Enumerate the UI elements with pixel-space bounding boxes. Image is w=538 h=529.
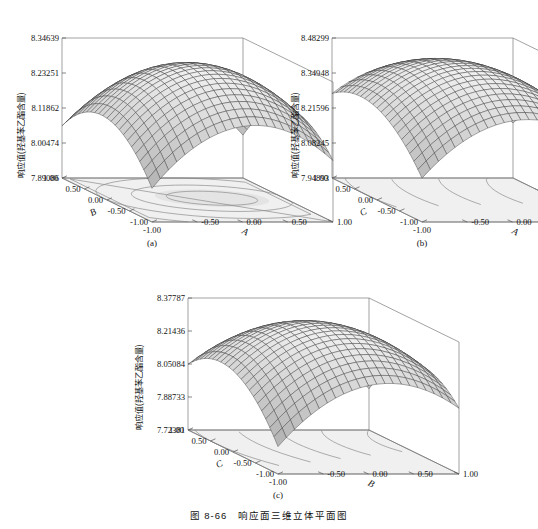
- right-axis-name: B: [366, 478, 376, 490]
- left-axis-tick-label: 0.00: [214, 447, 229, 457]
- surface-mesh: [332, 58, 538, 178]
- right-axis-tick-label: 0.00: [517, 217, 532, 227]
- z-tick-label: 8.05084: [157, 359, 186, 369]
- left-axis-tick-label: -0.50: [378, 206, 396, 216]
- front-corner-tick-label: -1.00: [143, 225, 161, 235]
- right-axis-tick-label: -0.50: [201, 217, 219, 227]
- left-axis-tick-label: 1.00: [43, 173, 58, 183]
- right-axis-name: A: [509, 225, 520, 237]
- z-tick-label: 8.23251: [31, 68, 59, 78]
- left-axis-tick-label: 0.50: [65, 184, 80, 194]
- z-tick-label: 8.00474: [31, 138, 60, 148]
- z-tick-label: 8.21596: [301, 103, 330, 113]
- z-axis-ticks: 8.377878.214368.050847.887337.72381: [157, 293, 192, 435]
- plot-area-a: 8.346398.232518.118628.004747.890861.000…: [0, 0, 268, 268]
- z-tick-label: 8.37787: [157, 293, 186, 303]
- panel-label: (b): [417, 238, 428, 248]
- front-corner-tick-label: -1.00: [413, 225, 431, 235]
- right-axis-tick-label: 1.00: [463, 469, 478, 479]
- right-axis-tick-label: 0.50: [418, 469, 433, 479]
- z-tick-label: 8.34639: [31, 33, 59, 43]
- surface-plot-c: 8.377878.214368.050847.887337.723811.000…: [130, 272, 398, 512]
- left-axis-name: B: [88, 206, 98, 218]
- left-axis-tick-label: 1.00: [169, 425, 184, 435]
- z-axis-ticks: 8.482998.349488.215968.082457.94893: [301, 33, 336, 183]
- z-tick-label: 8.11862: [31, 103, 59, 113]
- surface-plot-b: 8.482998.349488.215968.082457.948931.000…: [268, 0, 536, 268]
- front-corner-tick-label: -1.00: [269, 477, 287, 487]
- z-tick-label: 8.48299: [301, 33, 329, 43]
- left-axis-tick-label: 0.50: [191, 436, 206, 446]
- right-axis-tick-label: -0.50: [471, 217, 489, 227]
- left-axis-name: C: [358, 206, 369, 218]
- left-axis-name: C: [214, 458, 225, 470]
- response-surface-panel-c: 响应值(羟基苯乙酯含量) 8.377878.214368.050847.8873…: [130, 272, 398, 512]
- figure-caption: 图 8-66 响应面三维立体平面图: [0, 508, 538, 522]
- left-axis-tick-label: 0.00: [88, 195, 103, 205]
- panel-label: (c): [273, 490, 283, 500]
- left-axis-tick-label: 0.50: [335, 184, 350, 194]
- z-tick-label: 8.21436: [157, 326, 186, 336]
- left-axis-tick-label: -0.50: [234, 458, 252, 468]
- left-axis-tick-label: 0.00: [358, 195, 373, 205]
- surface-plot-a: 8.346398.232518.118628.004747.890861.000…: [0, 0, 268, 268]
- z-tick-label: 7.88733: [157, 392, 185, 402]
- left-axis-tick-label: 1.00: [313, 173, 328, 183]
- plot-area-c: 8.377878.214368.050847.887337.723811.000…: [130, 272, 398, 512]
- response-surface-panel-b: 响应值(羟基苯乙酯含量) 8.482998.349488.215968.0824…: [268, 0, 536, 268]
- right-axis-tick-label: -0.50: [327, 469, 345, 479]
- z-tick-label: 8.34948: [301, 68, 329, 78]
- right-axis-name: A: [239, 225, 250, 237]
- surface-mesh: [188, 321, 459, 447]
- response-surface-panel-a: 响应值(羟基苯乙酯含量) 8.346398.232518.118628.0047…: [0, 0, 268, 268]
- z-axis-ticks: 8.346398.232518.118628.004747.89086: [31, 33, 66, 183]
- plot-area-b: 8.482998.349488.215968.082457.948931.000…: [268, 0, 536, 268]
- panel-label: (a): [147, 238, 157, 248]
- right-axis-tick-label: 0.00: [373, 469, 388, 479]
- z-tick-label: 8.08245: [301, 138, 329, 148]
- left-axis-tick-label: -0.50: [108, 206, 126, 216]
- right-axis-tick-label: 0.00: [247, 217, 262, 227]
